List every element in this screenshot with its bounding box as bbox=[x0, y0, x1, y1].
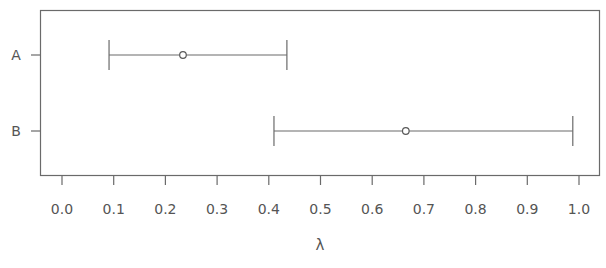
x-tick-label: 0.2 bbox=[154, 201, 176, 217]
x-axis: 0.00.10.20.30.40.50.60.70.80.91.0 bbox=[51, 176, 590, 217]
x-tick-label: 0.7 bbox=[413, 201, 435, 217]
point-estimate-marker bbox=[180, 52, 187, 59]
point-estimate-marker bbox=[403, 128, 410, 135]
interval-b bbox=[274, 116, 573, 146]
interval-a bbox=[109, 40, 287, 70]
y-tick-label-a: A bbox=[11, 47, 21, 63]
x-tick-label: 0.0 bbox=[51, 201, 73, 217]
x-tick-label: 0.3 bbox=[206, 201, 228, 217]
plot-area-frame bbox=[41, 11, 600, 176]
confidence-intervals bbox=[109, 40, 573, 146]
x-tick-label: 0.5 bbox=[309, 201, 331, 217]
x-tick-label: 0.1 bbox=[103, 201, 125, 217]
x-tick-label: 0.9 bbox=[516, 201, 538, 217]
y-axis: AB bbox=[11, 47, 40, 139]
x-tick-label: 0.4 bbox=[258, 201, 280, 217]
interval-chart: AB 0.00.10.20.30.40.50.60.70.80.91.0 λ bbox=[0, 0, 606, 268]
x-tick-label: 0.6 bbox=[361, 201, 383, 217]
x-axis-label: λ bbox=[316, 236, 325, 254]
x-tick-label: 1.0 bbox=[568, 201, 590, 217]
x-tick-label: 0.8 bbox=[464, 201, 486, 217]
y-tick-label-b: B bbox=[11, 123, 21, 139]
